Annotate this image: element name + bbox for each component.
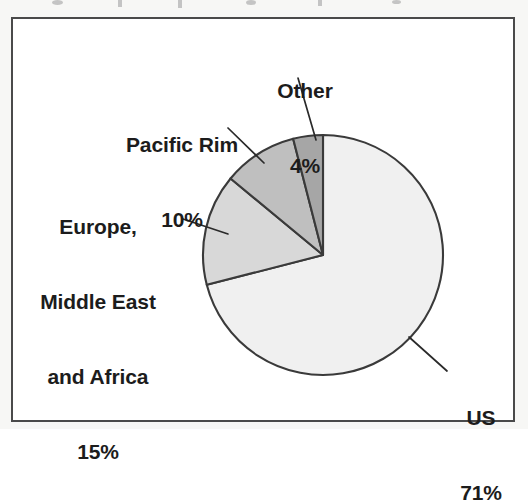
pie-label-pacific-rim-name: Pacific Rim <box>112 132 252 157</box>
pie-label-us: US 71% <box>448 355 514 504</box>
pie-label-other: Other 4% <box>250 28 360 228</box>
pie-label-emea-name-line1: Europe, <box>14 214 182 239</box>
pie-label-emea-name-line3: and Africa <box>14 364 182 389</box>
scan-artifact-strip <box>0 0 528 12</box>
pie-label-emea: Europe, Middle East and Africa 15% <box>14 164 182 504</box>
pie-label-us-value: 71% <box>448 480 514 504</box>
pie-label-other-value: 4% <box>250 153 360 178</box>
pie-label-us-name: US <box>448 405 514 430</box>
pie-label-emea-name-line2: Middle East <box>14 289 182 314</box>
pie-label-other-name: Other <box>250 78 360 103</box>
pie-label-emea-value: 15% <box>14 439 182 464</box>
